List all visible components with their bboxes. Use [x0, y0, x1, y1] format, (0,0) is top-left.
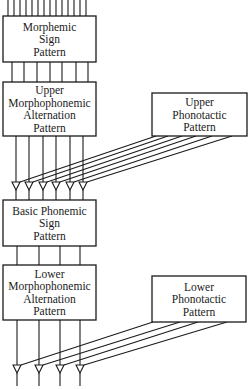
- lower-morphophonemic-alternation-pattern-label-line-2: Morphophonemic: [8, 280, 90, 293]
- linguistic-pattern-diagram: MorphemicSignPatternUpperMorphophonemicA…: [0, 0, 248, 389]
- fan-line-1: [21, 322, 153, 365]
- fan-line-3: [64, 322, 198, 365]
- basic-phonemic-sign-pattern-label-line-2: Sign: [39, 217, 60, 230]
- junctions-lower: [13, 365, 84, 386]
- lower-morphophonemic-alternation-pattern-label-line-4: Pattern: [33, 305, 66, 317]
- junctions-upper: [12, 182, 87, 200]
- lower-morphophonemic-alternation-pattern-box: LowerMorphophonemicAlternationPattern: [3, 265, 96, 320]
- fan-line-3: [47, 136, 182, 182]
- junction-triangle-icon: [52, 182, 60, 190]
- basic-phonemic-sign-pattern-label-line-3: Pattern: [33, 230, 66, 242]
- junction-triangle-icon: [13, 365, 21, 373]
- fan-line-5: [74, 136, 212, 182]
- upper-phonotactic-pattern-label-line-2: Phonotactic: [172, 109, 226, 121]
- lower-phonotactic-pattern-box: LowerPhonotacticPattern: [152, 276, 246, 322]
- morphemic-sign-pattern-label-line-2: Sign: [39, 33, 60, 46]
- fan-lower-phonotactic: [21, 322, 227, 365]
- morphemic-sign-pattern-label-line-3: Pattern: [33, 46, 66, 58]
- basic-phonemic-sign-pattern-box: Basic PhonemicSignPattern: [3, 200, 96, 246]
- upper-morphophonemic-alternation-pattern-label-line-1: Upper: [35, 84, 64, 97]
- fan-line-2: [43, 322, 180, 365]
- upper-phonotactic-pattern-label-line-1: Upper: [185, 96, 214, 109]
- fan-line-4: [60, 136, 196, 182]
- connector-lower-morphophonemic-to-junctions: [17, 320, 80, 365]
- lower-morphophonemic-alternation-pattern-label-line-3: Alternation: [23, 293, 76, 305]
- lower-morphophonemic-alternation-pattern-label-line-1: Lower: [34, 268, 64, 280]
- junction-triangle-icon: [76, 365, 84, 373]
- input-lines: [8, 0, 86, 16]
- junction-triangle-icon: [79, 182, 87, 190]
- upper-morphophonemic-alternation-pattern-box: UpperMorphophonemicAlternationPattern: [3, 82, 96, 136]
- pattern-boxes: MorphemicSignPatternUpperMorphophonemicA…: [3, 16, 247, 322]
- fan-line-6: [87, 136, 232, 182]
- fan-line-2: [33, 136, 168, 182]
- morphemic-sign-pattern-label-line-1: Morphemic: [23, 21, 77, 34]
- connector-upper-morphophonemic-to-junctions: [16, 136, 83, 182]
- fan-line-4: [84, 322, 227, 365]
- connector-morphemic-to-upper-morphophonemic: [12, 62, 88, 82]
- junction-triangle-icon: [35, 365, 43, 373]
- upper-morphophonemic-alternation-pattern-label-line-2: Morphophonemic: [8, 97, 90, 110]
- upper-phonotactic-pattern-box: UpperPhonotacticPattern: [152, 93, 247, 136]
- junction-triangle-icon: [39, 182, 47, 190]
- morphemic-sign-pattern-box: MorphemicSignPattern: [3, 16, 96, 62]
- lower-phonotactic-pattern-label-line-1: Lower: [184, 281, 214, 293]
- junction-triangle-icon: [12, 182, 20, 190]
- fan-upper-phonotactic: [20, 136, 232, 182]
- upper-morphophonemic-alternation-pattern-label-line-4: Pattern: [33, 122, 66, 134]
- upper-phonotactic-pattern-label-line-3: Pattern: [183, 121, 216, 133]
- junction-triangle-icon: [25, 182, 33, 190]
- connector-basic-phonemic-to-lower-morphophonemic: [17, 246, 80, 265]
- fan-line-1: [20, 136, 156, 182]
- basic-phonemic-sign-pattern-label-line-1: Basic Phonemic: [12, 205, 86, 217]
- lower-phonotactic-pattern-label-line-2: Phonotactic: [172, 293, 226, 305]
- lower-phonotactic-pattern-label-line-3: Pattern: [183, 306, 216, 318]
- upper-morphophonemic-alternation-pattern-label-line-3: Alternation: [23, 109, 76, 121]
- junction-triangle-icon: [56, 365, 64, 373]
- junction-triangle-icon: [66, 182, 74, 190]
